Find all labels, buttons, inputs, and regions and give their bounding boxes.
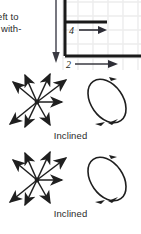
center-dot-icon bbox=[35, 100, 40, 105]
body-text-column: eft to l with- bbox=[0, 11, 48, 35]
annotation-label-2: 2 bbox=[66, 59, 71, 70]
ellipse-direction-arrowheads bbox=[95, 77, 118, 126]
arrow-right-icon bbox=[108, 60, 118, 68]
arrow-down-icon bbox=[50, 0, 62, 64]
figure-caption: Inclined bbox=[0, 208, 141, 219]
center-dot-icon bbox=[35, 178, 40, 183]
tilted-ellipse-icon bbox=[78, 72, 136, 130]
ellipse-direction-arrowheads bbox=[95, 155, 118, 204]
annotation-arrow-2: 2 bbox=[66, 59, 118, 70]
step-path bbox=[65, 0, 141, 56]
figure-caption: Inclined bbox=[0, 130, 141, 141]
radiating-arrows-icon bbox=[6, 72, 72, 130]
figure-inclined-1: Inclined bbox=[0, 72, 141, 152]
body-text-line-1: eft to bbox=[0, 11, 48, 23]
tilted-ellipse-icon bbox=[78, 150, 136, 208]
arrow-right-icon bbox=[98, 26, 107, 34]
step-plot: 4 2 bbox=[62, 0, 141, 70]
radiating-arrows-icon bbox=[6, 150, 72, 208]
annotation-label-4: 4 bbox=[69, 25, 74, 36]
figure-inclined-2: Inclined bbox=[0, 150, 141, 230]
body-text-line-2: l with- bbox=[0, 23, 48, 35]
